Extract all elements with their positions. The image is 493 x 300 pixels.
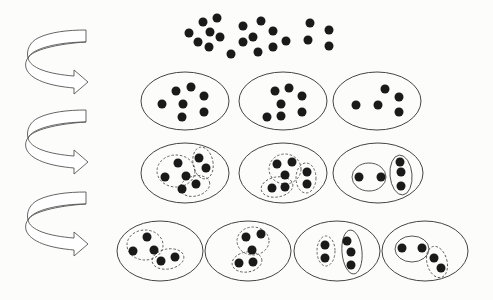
data-point-dot — [430, 254, 439, 263]
data-point-dot — [397, 182, 406, 191]
data-point-dot — [254, 48, 263, 57]
data-point-dot — [355, 173, 364, 182]
top-cluster — [185, 14, 334, 59]
data-point-dot — [195, 154, 204, 163]
data-point-dot — [381, 85, 390, 94]
data-point-dot — [437, 264, 446, 273]
partition-group — [141, 72, 229, 130]
partition-group — [141, 143, 229, 203]
data-point-dot — [397, 168, 406, 177]
data-point-dot — [185, 29, 194, 38]
data-point-dot — [199, 18, 208, 27]
data-point-dot — [187, 83, 196, 92]
data-point-dot — [182, 172, 191, 181]
partition-group — [239, 72, 327, 130]
group-ellipse — [333, 143, 423, 203]
data-point-dot — [178, 185, 187, 194]
data-point-dot — [158, 100, 167, 109]
data-point-dot — [343, 237, 352, 246]
data-point-dot — [347, 248, 356, 257]
data-point-dot — [202, 164, 211, 173]
data-point-dot — [277, 112, 286, 121]
data-point-dot — [321, 254, 330, 263]
data-point-dot — [281, 183, 290, 192]
data-point-dot — [249, 33, 258, 42]
diagram-canvas — [0, 0, 493, 300]
data-point-dot — [257, 230, 266, 239]
data-point-dot — [298, 108, 307, 117]
data-point-dot — [235, 259, 244, 268]
dashed-subgroup-ellipse — [296, 163, 316, 193]
data-point-dot — [325, 42, 334, 51]
data-point-dot — [227, 50, 236, 59]
partition-group — [333, 143, 423, 203]
data-point-dot — [248, 246, 257, 255]
partition-group — [205, 221, 291, 281]
data-point-dot — [174, 159, 183, 168]
partition-group — [239, 143, 327, 203]
data-point-dot — [277, 100, 286, 109]
data-point-dot — [178, 113, 187, 122]
data-point-dot — [216, 33, 225, 42]
data-point-dot — [418, 244, 427, 253]
curved-arrow-icon — [26, 30, 88, 94]
data-point-dot — [396, 158, 405, 167]
data-point-dot — [374, 101, 383, 110]
data-point-dot — [398, 244, 407, 253]
data-point-dot — [288, 158, 297, 167]
data-point-dot — [249, 258, 258, 267]
partition-group — [382, 221, 468, 281]
data-point-dot — [304, 36, 313, 45]
data-point-dot — [306, 19, 315, 28]
data-point-dot — [239, 22, 248, 31]
data-point-dot — [200, 108, 209, 117]
data-point-dot — [171, 253, 180, 262]
data-point-dot — [263, 113, 272, 122]
data-point-dot — [242, 233, 251, 242]
data-point-dot — [157, 257, 166, 266]
data-point-dot — [239, 38, 248, 47]
curved-arrow-icon — [26, 192, 88, 256]
data-point-dot — [347, 261, 356, 270]
data-point-dot — [269, 27, 278, 36]
partition-row-1 — [141, 72, 421, 130]
data-point-dot — [129, 247, 138, 256]
data-point-dot — [271, 87, 280, 96]
dashed-subgroup-ellipse — [423, 244, 451, 280]
data-point-dot — [257, 17, 266, 26]
data-point-dot — [268, 184, 277, 193]
data-point-dot — [213, 14, 222, 23]
partition-group — [333, 72, 421, 130]
data-point-dot — [205, 43, 214, 52]
data-point-dot — [200, 92, 209, 101]
partition-row-2 — [141, 143, 423, 203]
data-point-dot — [395, 93, 404, 102]
data-point-dot — [150, 246, 159, 255]
partition-row-3 — [117, 221, 468, 281]
data-point-dot — [172, 87, 181, 96]
data-point-dot — [161, 173, 170, 182]
data-point-dot — [285, 84, 294, 93]
data-point-dot — [192, 180, 201, 189]
data-point-dot — [281, 171, 290, 180]
data-point-dot — [298, 92, 307, 101]
data-point-dot — [321, 241, 330, 250]
data-point-dot — [194, 38, 203, 47]
data-point-dot — [303, 180, 312, 189]
data-point-dot — [282, 37, 291, 46]
curved-arrow-icon — [26, 110, 88, 174]
partition-group — [117, 221, 203, 281]
data-point-dot — [303, 168, 312, 177]
data-point-dot — [206, 28, 215, 37]
arrows-layer — [26, 30, 88, 256]
partition-rows — [117, 72, 468, 281]
data-point-dot — [377, 173, 386, 182]
partition-group — [294, 221, 380, 281]
group-ellipse — [294, 221, 380, 281]
recursive-partition-diagram — [0, 0, 493, 300]
data-point-dot — [143, 233, 152, 242]
data-point-dot — [395, 108, 404, 117]
data-point-dot — [269, 43, 278, 52]
data-point-dot — [179, 100, 188, 109]
data-point-dot — [325, 26, 334, 35]
